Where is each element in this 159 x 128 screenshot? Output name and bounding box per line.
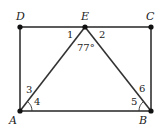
angle-label-3: 3 [26, 84, 32, 95]
segment-eb [85, 27, 151, 111]
point-a [17, 108, 22, 113]
label-a: A [8, 114, 17, 127]
angle-label-4: 4 [34, 96, 40, 107]
label-d: D [15, 10, 25, 23]
label-b: B [138, 114, 147, 127]
label-c: C [146, 10, 155, 23]
angle-arc-4 [27, 102, 32, 112]
angle-arc-5 [139, 102, 144, 112]
geometry-diagram: D E C A B 1 2 77° 3 4 5 6 [0, 0, 159, 128]
point-d [17, 24, 22, 29]
angle-label-6: 6 [139, 83, 145, 94]
angle-label-2: 2 [99, 29, 105, 40]
point-c [148, 24, 153, 29]
angle-label-1: 1 [67, 29, 73, 40]
point-e [82, 24, 87, 29]
angle-label-5: 5 [131, 96, 137, 107]
label-e: E [80, 10, 89, 23]
angle-label-apex: 77° [77, 42, 95, 53]
point-b [148, 108, 153, 113]
segment-ae [20, 27, 85, 111]
